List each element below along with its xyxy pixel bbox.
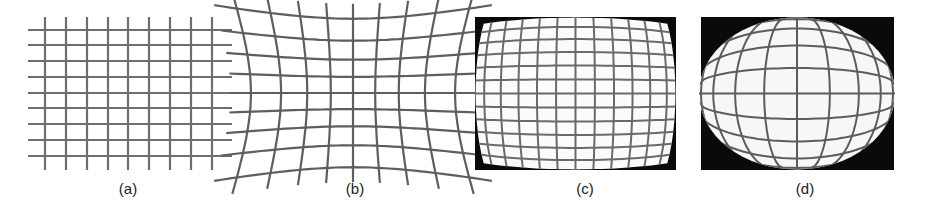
caption-d: (d): [796, 180, 814, 197]
figure: (a) (b) (c) (d): [0, 0, 925, 215]
panel-c: [475, 17, 676, 170]
caption-c: (c): [576, 180, 594, 197]
caption-b: (b): [346, 180, 364, 197]
panel-d-grid: [699, 18, 895, 170]
caption-a: (a): [119, 180, 137, 197]
panel-a-grid: [28, 17, 232, 170]
distortion-grids-svg: [0, 0, 925, 215]
panel-d: [699, 17, 895, 170]
panel-b-grid: [214, 0, 492, 194]
panel-c-grid: [476, 18, 676, 170]
